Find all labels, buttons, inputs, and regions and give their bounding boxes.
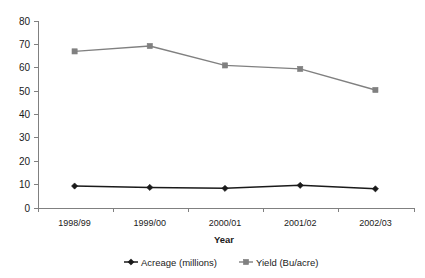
data-point-marker xyxy=(128,259,134,265)
data-point-marker xyxy=(243,259,248,264)
x-axis: 1998/991999/002000/012001/022002/03 xyxy=(38,208,414,228)
y-tick-label: 30 xyxy=(19,132,31,143)
data-point-marker xyxy=(297,182,303,188)
x-tick-label: 2002/03 xyxy=(359,218,392,228)
y-tick-label: 0 xyxy=(24,203,30,214)
data-point-marker xyxy=(372,186,378,192)
data-point-marker xyxy=(72,183,78,189)
data-point-marker xyxy=(373,87,378,92)
y-tick-label: 40 xyxy=(19,109,31,120)
chart-canvas: 01020304050607080 1998/991999/002000/012… xyxy=(0,0,425,278)
x-tick-label: 1998/99 xyxy=(58,218,91,228)
data-point-marker xyxy=(147,184,153,190)
y-tick-label: 20 xyxy=(19,156,31,167)
legend-label: Yield (Bu/acre) xyxy=(256,257,318,268)
y-tick-label: 50 xyxy=(19,86,31,97)
y-tick-label: 60 xyxy=(19,62,31,73)
data-point-marker xyxy=(72,49,77,54)
y-tick-label: 80 xyxy=(19,16,31,27)
x-axis-title: Year xyxy=(214,234,234,245)
data-point-marker xyxy=(222,185,228,191)
x-tick-label: 1999/00 xyxy=(134,218,167,228)
data-series-group xyxy=(72,43,379,192)
data-point-marker xyxy=(298,66,303,71)
line-chart: 01020304050607080 1998/991999/002000/012… xyxy=(0,0,425,278)
data-point-marker xyxy=(222,63,227,68)
data-point-marker xyxy=(147,43,152,48)
y-tick-label: 10 xyxy=(19,179,31,190)
x-tick-label: 2001/02 xyxy=(284,218,317,228)
y-axis: 01020304050607080 xyxy=(19,16,38,214)
legend-label: Acreage (millions) xyxy=(141,257,217,268)
x-tick-label: 2000/01 xyxy=(209,218,242,228)
y-tick-label: 70 xyxy=(19,39,31,50)
chart-legend: Acreage (millions)Yield (Bu/acre) xyxy=(124,257,318,268)
